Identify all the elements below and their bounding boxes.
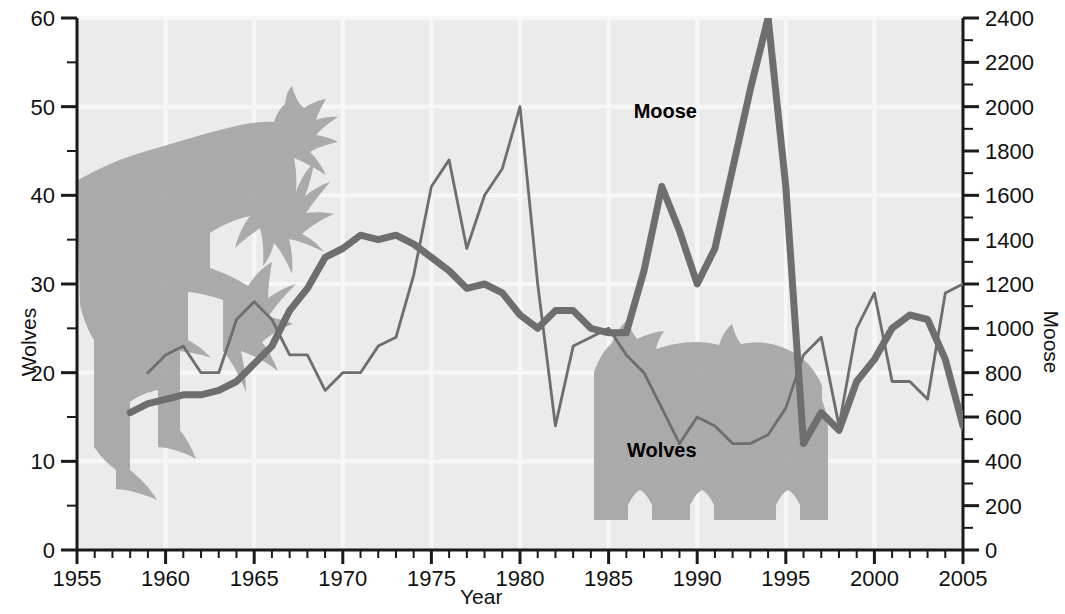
- svg-text:1200: 1200: [985, 272, 1034, 297]
- svg-text:200: 200: [985, 494, 1022, 519]
- svg-text:1400: 1400: [985, 228, 1034, 253]
- chart-canvas: 1955196019651970197519801985199019952000…: [0, 0, 1065, 614]
- svg-text:1800: 1800: [985, 139, 1034, 164]
- svg-text:2005: 2005: [939, 566, 988, 591]
- svg-text:1975: 1975: [407, 566, 456, 591]
- svg-text:10: 10: [31, 449, 55, 474]
- svg-text:600: 600: [985, 405, 1022, 430]
- svg-text:Wolves: Wolves: [627, 439, 697, 461]
- svg-text:1970: 1970: [318, 566, 367, 591]
- svg-text:40: 40: [31, 183, 55, 208]
- svg-text:30: 30: [31, 272, 55, 297]
- svg-text:1995: 1995: [761, 566, 810, 591]
- svg-text:60: 60: [31, 6, 55, 31]
- svg-text:50: 50: [31, 95, 55, 120]
- svg-text:800: 800: [985, 361, 1022, 386]
- svg-text:2200: 2200: [985, 50, 1034, 75]
- svg-text:1000: 1000: [985, 316, 1034, 341]
- svg-text:1960: 1960: [141, 566, 190, 591]
- wolves-moose-population-chart: Wolves Moose Year 1955196019651970197519…: [0, 0, 1065, 614]
- svg-text:2000: 2000: [985, 95, 1034, 120]
- svg-text:2400: 2400: [985, 6, 1034, 31]
- svg-text:1965: 1965: [230, 566, 279, 591]
- svg-text:1990: 1990: [673, 566, 722, 591]
- svg-text:1985: 1985: [584, 566, 633, 591]
- svg-text:1955: 1955: [53, 566, 102, 591]
- svg-text:2000: 2000: [850, 566, 899, 591]
- svg-text:0: 0: [43, 538, 55, 563]
- svg-text:20: 20: [31, 361, 55, 386]
- svg-text:0: 0: [985, 538, 997, 563]
- svg-text:1980: 1980: [496, 566, 545, 591]
- svg-text:1600: 1600: [985, 183, 1034, 208]
- svg-text:400: 400: [985, 449, 1022, 474]
- svg-text:Moose: Moose: [634, 100, 697, 122]
